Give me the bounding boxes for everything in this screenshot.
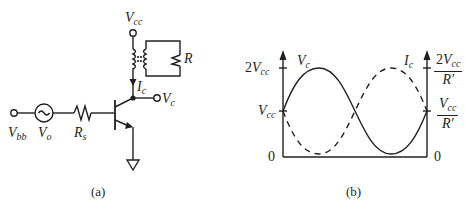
tick-2vcc-over-r: 2Vcc R′: [434, 52, 462, 87]
sine-glyph: [39, 111, 50, 115]
vcc-terminal: [130, 30, 136, 36]
vc-terminal: [154, 95, 160, 101]
resistor-rs-icon: [74, 106, 91, 120]
right-axis-arrow-icon: [424, 50, 431, 60]
vc-curve: [283, 68, 427, 154]
collector-node: [130, 95, 135, 100]
label-vbb: Vbb: [8, 126, 27, 144]
tick-vcc-over-r: Vcc R′: [437, 96, 458, 131]
tick-zero-left: 0: [268, 150, 275, 164]
resistor-r-icon: [172, 55, 180, 66]
label-ic: Ic: [137, 80, 146, 98]
label-vcc: Vcc: [125, 11, 142, 29]
tick-2vcc: 2Vcc: [245, 61, 269, 79]
vbb-terminal: [11, 110, 17, 116]
tick-vcc: Vcc: [258, 104, 275, 122]
label-r: R: [184, 52, 193, 66]
figure-canvas: [0, 0, 471, 207]
label-vc: Vc: [162, 92, 175, 110]
caption-b: (b): [346, 184, 361, 200]
tick-zero-right: 0: [434, 150, 441, 164]
ground-icon: [127, 160, 139, 170]
label-rs: Rs: [74, 126, 86, 144]
left-axis-arrow-icon: [280, 50, 287, 60]
label-vo: Vo: [38, 126, 52, 144]
curve-label-vc: Vc: [297, 54, 310, 72]
waveform-chart: [279, 58, 431, 157]
caption-a: (a): [91, 184, 105, 200]
emitter-arrow-icon: [125, 122, 133, 129]
transformer-secondary-icon: [144, 49, 147, 69]
ic-arrow-icon: [130, 79, 137, 86]
transformer-primary-icon: [133, 49, 136, 69]
curve-label-ic: Ic: [404, 54, 413, 72]
